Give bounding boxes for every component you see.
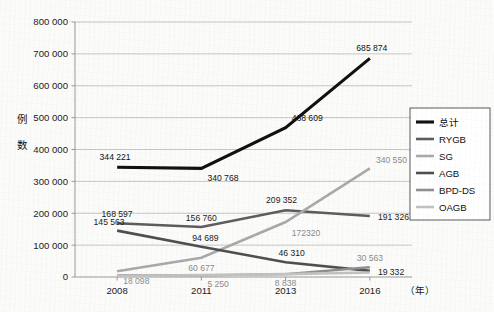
legend-label-OAGB: OAGB bbox=[439, 202, 467, 213]
point-label-总计-2013: 468 609 bbox=[292, 113, 323, 123]
y-tick-label: 500 000 bbox=[33, 112, 68, 123]
y-tick-label: 100 000 bbox=[33, 240, 68, 251]
point-label-BPD-DS-2011: 5 250 bbox=[207, 279, 229, 289]
x-axis-unit-label: （年） bbox=[405, 285, 435, 296]
series-line-总计 bbox=[117, 58, 370, 168]
legend-label-BPD-DS: BPD-DS bbox=[439, 185, 475, 196]
legend-label-RYGB: RYGB bbox=[439, 134, 466, 145]
y-tick-label: 200 000 bbox=[33, 208, 68, 219]
point-label-AGB-2008: 145 563 bbox=[94, 217, 125, 227]
x-tick-label: 2008 bbox=[106, 285, 127, 296]
point-label-RYGB-2013: 209 352 bbox=[266, 195, 297, 205]
x-tick-label: 2016 bbox=[359, 285, 380, 296]
point-label-RYGB-2011: 156 760 bbox=[186, 213, 217, 223]
point-label-BPD-DS-2016: 30 563 bbox=[357, 253, 384, 263]
point-label-AGB-2013: 46 310 bbox=[278, 248, 305, 258]
y-axis-title-char: 例 bbox=[17, 113, 27, 125]
data-series bbox=[117, 58, 370, 276]
point-label-AGB-2016: 19 332 bbox=[378, 267, 405, 277]
x-axis-unit: （年） bbox=[405, 285, 435, 296]
y-tick-label: 600 000 bbox=[33, 80, 68, 91]
point-label-SG-2013: 172320 bbox=[292, 228, 321, 238]
y-axis-tick-labels: 0100 000200 000300 000400 000500 000600 … bbox=[33, 16, 75, 282]
legend-label-AGB: AGB bbox=[439, 168, 459, 179]
y-axis-title: 例数 bbox=[17, 113, 28, 151]
line-chart-canvas: 0100 000200 000300 000400 000500 000600 … bbox=[0, 0, 494, 312]
point-label-总计-2008: 344 221 bbox=[100, 152, 131, 162]
y-axis-title-char: 数 bbox=[17, 139, 28, 151]
point-label-RYGB-2016: 191 326 bbox=[378, 212, 409, 222]
point-label-SG-2008: 18 098 bbox=[123, 276, 150, 286]
y-tick-label: 400 000 bbox=[33, 144, 68, 155]
point-label-BPD-DS-2013: 8 838 bbox=[275, 278, 297, 288]
chart-figure: 0100 000200 000300 000400 000500 000600 … bbox=[0, 0, 494, 312]
point-label-总计-2016: 685 874 bbox=[356, 43, 387, 53]
point-label-AGB-2011: 94 689 bbox=[192, 233, 219, 243]
point-label-总计-2011: 340 768 bbox=[207, 173, 238, 183]
legend-label-SG: SG bbox=[439, 151, 453, 162]
y-tick-label: 700 000 bbox=[33, 48, 68, 59]
point-label-SG-2016: 340 550 bbox=[376, 155, 407, 165]
y-tick-label: 800 000 bbox=[33, 16, 68, 27]
series-line-RYGB bbox=[117, 210, 370, 227]
legend-label-总计: 总计 bbox=[439, 117, 459, 128]
point-label-SG-2011: 60 677 bbox=[188, 263, 215, 273]
chart-legend: 总计RYGBSGAGBBPD-DSOAGB bbox=[410, 108, 490, 220]
y-tick-label: 0 bbox=[63, 271, 68, 282]
y-tick-label: 300 000 bbox=[33, 176, 68, 187]
